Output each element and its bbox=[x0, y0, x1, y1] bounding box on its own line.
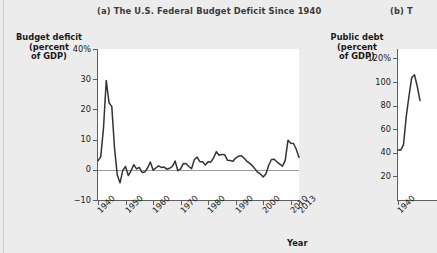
panel-b-y-tick-label: 40 bbox=[335, 147, 391, 157]
panel-a-y-tick bbox=[93, 49, 97, 50]
panel-a-y-tick-label: 10 bbox=[35, 134, 91, 144]
panel-b-y-tick-label: 60 bbox=[335, 124, 391, 134]
panel-b-y-tick bbox=[393, 106, 397, 107]
budget-deficit-polyline bbox=[98, 80, 299, 182]
panel-b-y-tick bbox=[393, 176, 397, 177]
page-edge-rule bbox=[3, 0, 4, 253]
panel-a-y-tick-label: 30 bbox=[35, 74, 91, 84]
panel-a-data-line bbox=[98, 49, 299, 200]
panel-b-y-tick bbox=[393, 58, 397, 59]
panel-a-y-tick-label: −10 bbox=[35, 195, 91, 205]
panel-a-y-tick bbox=[93, 79, 97, 80]
panel-b-y-tick bbox=[393, 82, 397, 83]
panel-a-y-tick-label: 0 bbox=[35, 164, 91, 174]
panel-a-y-tick bbox=[93, 170, 97, 171]
panel-b-y-tick-label: 100 bbox=[335, 77, 391, 87]
panel-a-x-axis-title: Year bbox=[287, 238, 308, 248]
panel-b-y-tick bbox=[393, 153, 397, 154]
panel-a-y-tick bbox=[93, 140, 97, 141]
panel-a-y-tick-label: 20 bbox=[35, 104, 91, 114]
panel-a-y-tick bbox=[93, 200, 97, 201]
panel-b-title: (b) T bbox=[390, 6, 413, 16]
panel-b-y-tick-label: 20 bbox=[335, 171, 391, 181]
panel-a-title: (a) The U.S. Federal Budget Deficit Sinc… bbox=[97, 6, 321, 16]
figure-container: (a) The U.S. Federal Budget Deficit Sinc… bbox=[0, 0, 437, 253]
panel-a-y-tick-label: 40% bbox=[35, 44, 91, 54]
panel-a-y-tick bbox=[93, 109, 97, 110]
panel-b-y-tick bbox=[393, 129, 397, 130]
panel-b-data-line bbox=[398, 49, 437, 200]
panel-b-y-tick-label: 120% bbox=[335, 53, 391, 63]
public-debt-polyline bbox=[398, 75, 420, 150]
panel-b-y-tick-label: 80 bbox=[335, 100, 391, 110]
